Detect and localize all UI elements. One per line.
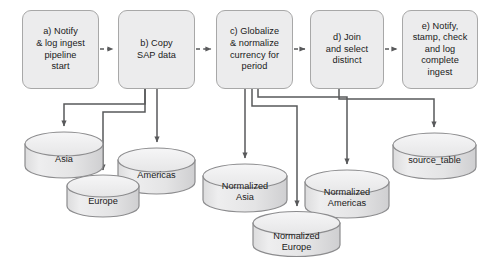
- connector-step-d-to-source-table: [339, 89, 434, 127]
- datastore-europe-label: Europe: [67, 196, 139, 207]
- connector-step-b-to-asia: [64, 89, 145, 126]
- pipeline-diagram: a) Notify & log ingest pipeline start b)…: [0, 0, 497, 270]
- datastore-asia[interactable]: Asia: [25, 130, 103, 180]
- datastore-asia-label: Asia: [25, 154, 103, 165]
- datastore-normalized-asia[interactable]: Normalized Asia: [203, 162, 287, 214]
- process-step-c[interactable]: c) Globalize & normalize currency for pe…: [216, 10, 293, 89]
- process-step-d-label: d) Join and select distinct: [326, 32, 368, 67]
- datastore-normalized-europe-label: Normalized Europe: [253, 231, 340, 254]
- datastore-normalized-americas-label: Normalized Americas: [305, 187, 389, 210]
- datastore-normalized-asia-label: Normalized Asia: [203, 181, 287, 204]
- process-step-e-label: e) Notify, stamp, check and log complete…: [413, 21, 468, 79]
- process-step-d[interactable]: d) Join and select distinct: [310, 10, 384, 89]
- process-step-b-label: b) Copy SAP data: [137, 38, 176, 61]
- process-step-b[interactable]: b) Copy SAP data: [118, 10, 195, 89]
- connector-step-c-to-normalized-americas: [258, 89, 347, 164]
- datastore-europe[interactable]: Europe: [67, 174, 139, 218]
- datastore-normalized-europe[interactable]: Normalized Europe: [253, 210, 340, 258]
- datastore-source-table-label: source_table: [393, 155, 476, 166]
- process-step-a-label: a) Notify & log ingest pipeline start: [36, 26, 85, 72]
- process-step-a[interactable]: a) Notify & log ingest pipeline start: [22, 10, 99, 89]
- process-step-c-label: c) Globalize & normalize currency for pe…: [230, 26, 279, 72]
- datastore-source-table[interactable]: source_table: [393, 131, 476, 181]
- process-step-e[interactable]: e) Notify, stamp, check and log complete…: [402, 10, 478, 89]
